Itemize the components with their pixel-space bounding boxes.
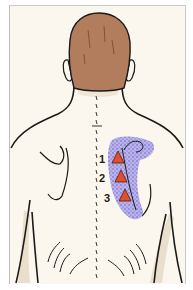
point-label-3: 3 xyxy=(104,193,110,204)
point-label-1: 1 xyxy=(99,154,105,165)
back-illustration xyxy=(0,0,193,290)
hair xyxy=(69,13,130,91)
point-label-2: 2 xyxy=(99,173,105,184)
